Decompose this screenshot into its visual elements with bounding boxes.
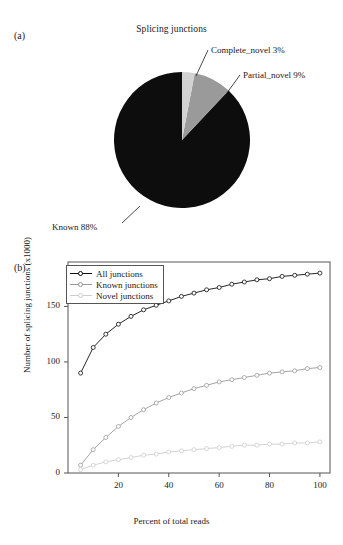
data-point (242, 280, 246, 284)
data-point (104, 436, 108, 440)
data-point (167, 396, 171, 400)
data-point (91, 346, 95, 350)
data-point (167, 299, 171, 303)
data-point (179, 449, 183, 453)
legend-marker-icon (70, 280, 92, 289)
leader-line-known (122, 206, 140, 223)
data-point (305, 272, 309, 276)
data-point (192, 387, 196, 391)
data-point (217, 446, 221, 450)
data-point (205, 383, 209, 387)
data-point (280, 442, 284, 446)
data-point (154, 401, 158, 405)
data-point (129, 456, 133, 460)
y-tick-label: 150 (34, 300, 60, 310)
data-point (318, 366, 322, 370)
data-point (205, 447, 209, 451)
data-point (305, 367, 309, 371)
data-point (116, 458, 120, 462)
data-point (179, 294, 183, 298)
data-point (116, 424, 120, 428)
data-point (129, 314, 133, 318)
data-point (280, 370, 284, 374)
pie-label-complete-novel: Complete_novel 3% (211, 45, 285, 55)
y-tick-label: 0 (34, 467, 60, 477)
data-point (91, 448, 95, 452)
chart-legend: All junctionsKnown junctionsNovel juncti… (66, 265, 164, 304)
data-point (293, 273, 297, 277)
x-tick-label: 40 (156, 480, 182, 490)
legend-item: Known junctions (70, 279, 158, 290)
pie-label-known: Known 88% (52, 222, 97, 232)
data-point (205, 288, 209, 292)
y-axis-label: Number of splicing junctions (x1000) (22, 210, 32, 400)
data-point (217, 286, 221, 290)
data-point (154, 452, 158, 456)
data-point (230, 444, 234, 448)
data-point (91, 463, 95, 467)
legend-item: All junctions (70, 268, 158, 279)
data-point (142, 453, 146, 457)
leader-line-complete-novel (196, 50, 208, 76)
x-tick-label: 80 (257, 480, 283, 490)
data-point (79, 371, 83, 375)
y-tick-label: 100 (34, 356, 60, 366)
data-point (280, 274, 284, 278)
series-known-junctions (79, 366, 322, 468)
pie-chart: Complete_novel 3% Partial_novel 9% Known… (0, 0, 343, 262)
data-point (79, 468, 83, 472)
data-point (318, 440, 322, 444)
legend-marker-icon (70, 269, 92, 278)
x-axis-ticks (118, 473, 320, 477)
data-point (293, 441, 297, 445)
data-point (230, 378, 234, 382)
data-point (79, 463, 83, 467)
series-novel-junctions (79, 440, 322, 472)
data-point (255, 373, 259, 377)
x-tick-label: 60 (206, 480, 232, 490)
legend-item: Novel junctions (70, 290, 158, 301)
data-point (242, 443, 246, 447)
data-point (230, 282, 234, 286)
data-point (179, 391, 183, 395)
data-point (116, 322, 120, 326)
series-line (81, 442, 320, 470)
data-point (255, 443, 259, 447)
leader-line-partial-novel (224, 75, 240, 97)
legend-label: Known junctions (96, 280, 158, 290)
data-point (268, 277, 272, 281)
data-point (192, 291, 196, 295)
data-point (255, 278, 259, 282)
data-point (192, 448, 196, 452)
pie-label-partial-novel: Partial_novel 9% (243, 70, 305, 80)
data-point (305, 441, 309, 445)
legend-label: All junctions (96, 269, 143, 279)
data-point (268, 371, 272, 375)
y-axis-ticks (64, 306, 68, 473)
data-point (104, 460, 108, 464)
data-point (318, 271, 322, 275)
data-point (217, 380, 221, 384)
data-point (242, 376, 246, 380)
data-point (293, 369, 297, 373)
series-line (81, 368, 320, 466)
data-point (129, 416, 133, 420)
x-tick-label: 100 (307, 480, 333, 490)
x-axis-label: Percent of total reads (0, 516, 343, 526)
data-point (104, 332, 108, 336)
data-point (167, 450, 171, 454)
data-point (268, 442, 272, 446)
data-point (142, 408, 146, 412)
legend-label: Novel junctions (96, 291, 153, 301)
x-tick-label: 20 (105, 480, 131, 490)
y-tick-label: 50 (34, 411, 60, 421)
data-point (142, 308, 146, 312)
legend-marker-icon (70, 291, 92, 300)
pie-slices (114, 72, 250, 208)
